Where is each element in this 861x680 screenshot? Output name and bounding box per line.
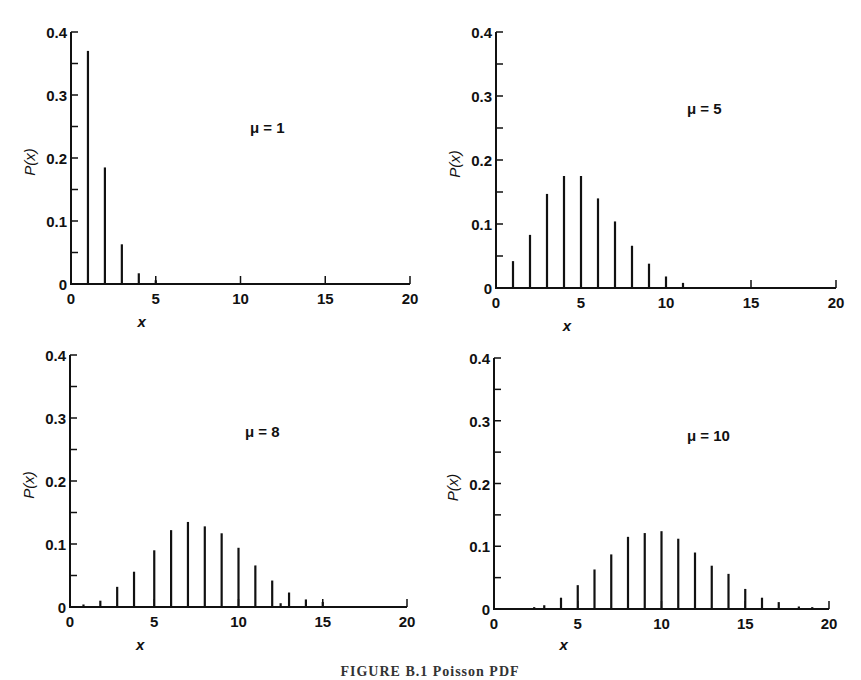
- y-axis-title: P(x): [20, 471, 37, 499]
- y-axis-title: P(x): [21, 148, 38, 176]
- panel-mu-10: 00.10.20.30.405101520xP(x)μ = 10: [444, 350, 837, 653]
- y-tick-label: 0.3: [45, 410, 66, 427]
- x-tick-label: 0: [66, 613, 74, 630]
- y-tick-label: 0.2: [46, 150, 67, 167]
- y-tick-label: 0.4: [46, 24, 68, 41]
- x-tick-label: 0: [490, 615, 498, 632]
- x-tick-label: 10: [658, 294, 675, 311]
- mean-annotation: μ = 10: [687, 427, 730, 444]
- panel-mu-1: 00.10.20.30.405101520xP(x)μ = 1: [21, 24, 418, 330]
- mean-annotation: μ = 5: [687, 100, 722, 117]
- x-tick-label: 15: [314, 613, 331, 630]
- y-tick-label: 0: [482, 601, 490, 618]
- y-tick-label: 0.1: [45, 536, 66, 553]
- x-axis-title: x: [562, 317, 572, 334]
- x-tick-label: 20: [402, 290, 419, 307]
- y-tick-label: 0.4: [45, 347, 67, 364]
- mean-annotation: μ = 8: [245, 423, 280, 440]
- y-tick-label: 0.4: [469, 350, 491, 367]
- y-tick-label: 0.2: [471, 152, 492, 169]
- x-tick-label: 0: [67, 290, 75, 307]
- x-tick-label: 0: [492, 294, 500, 311]
- x-tick-label: 10: [653, 615, 670, 632]
- x-tick-label: 10: [230, 613, 247, 630]
- y-axis-title: P(x): [446, 150, 463, 178]
- x-axis-title: x: [559, 636, 569, 653]
- x-tick-label: 15: [737, 615, 754, 632]
- y-tick-label: 0.3: [471, 88, 492, 105]
- y-tick-label: 0: [484, 280, 492, 297]
- y-tick-label: 0.1: [471, 216, 492, 233]
- y-tick-label: 0.2: [45, 473, 66, 490]
- panel-mu-5: 00.10.20.30.405101520xP(x)μ = 5: [446, 24, 844, 334]
- mean-annotation: μ = 1: [250, 119, 285, 136]
- panel-mu-8: 00.10.20.30.405101520xP(x)μ = 8: [20, 347, 415, 653]
- x-tick-label: 5: [577, 294, 585, 311]
- x-tick-label: 5: [152, 290, 160, 307]
- x-axis-title: x: [137, 313, 147, 330]
- poisson-figure: 00.10.20.30.405101520xP(x)μ = 1 00.10.20…: [0, 0, 861, 680]
- x-tick-label: 5: [150, 613, 158, 630]
- y-tick-label: 0.3: [469, 413, 490, 430]
- y-tick-label: 0: [59, 276, 67, 293]
- y-axis-title: P(x): [444, 474, 461, 502]
- x-tick-label: 20: [821, 615, 838, 632]
- x-tick-label: 5: [574, 615, 582, 632]
- x-tick-label: 20: [399, 613, 416, 630]
- y-tick-label: 0.1: [46, 213, 67, 230]
- y-tick-label: 0.3: [46, 87, 67, 104]
- x-tick-label: 15: [317, 290, 334, 307]
- x-tick-label: 10: [232, 290, 249, 307]
- x-tick-label: 20: [828, 294, 845, 311]
- y-tick-label: 0.2: [469, 476, 490, 493]
- y-tick-label: 0: [58, 599, 66, 616]
- y-tick-label: 0.4: [471, 24, 493, 41]
- figure-caption: FIGURE B.1 Poisson PDF: [340, 664, 519, 679]
- y-tick-label: 0.1: [469, 538, 490, 555]
- x-axis-title: x: [135, 636, 145, 653]
- x-tick-label: 15: [743, 294, 760, 311]
